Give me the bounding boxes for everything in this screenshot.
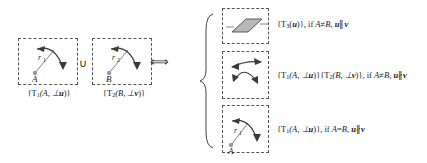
- figure-root: r 1 A {T1(A, ⊥u)} ∪ r 2 B {T2(B, ⊥v)} ⟺ …: [0, 0, 427, 163]
- label-case-3: {T1(A, ⊥u)}, if A=B, u∦v: [277, 124, 365, 134]
- case-3-glyphs: r 1 A: [0, 0, 427, 163]
- case3-cond-v: v: [361, 124, 365, 134]
- case3-radius-label: r: [234, 126, 238, 135]
- case3-result-suffix: )}, if: [313, 124, 331, 134]
- case3-point-label: A: [227, 146, 234, 156]
- case3-result-prefix: {T: [277, 124, 286, 134]
- case3-radius-sub: 1: [239, 130, 242, 136]
- case3-result-body: (A, ⊥: [289, 124, 308, 134]
